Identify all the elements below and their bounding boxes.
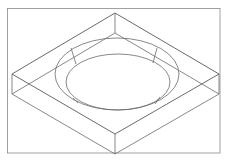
recess-inner-floor	[66, 54, 170, 110]
isometric-drawing	[0, 0, 227, 165]
drawing-svg	[0, 0, 227, 165]
block-wireframe	[12, 13, 219, 154]
recess-wall-tick-1	[71, 48, 76, 64]
recess-wall-tick-3	[73, 98, 78, 103]
edge-back-bottom-left	[12, 33, 115, 94]
drawing-frame	[8, 9, 221, 154]
circular-recess	[55, 38, 179, 110]
recess-outer-rim	[55, 38, 179, 110]
edge-bottom-right	[115, 94, 219, 154]
block-top-face	[12, 13, 219, 134]
edge-bottom-left	[12, 94, 115, 154]
edge-back-bottom-right	[115, 33, 219, 94]
